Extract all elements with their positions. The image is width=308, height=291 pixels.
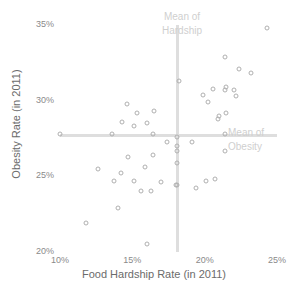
data-point	[152, 109, 157, 114]
data-point	[110, 131, 115, 136]
data-point	[84, 221, 89, 226]
data-point	[222, 148, 227, 153]
data-point	[205, 100, 210, 105]
data-point	[248, 71, 253, 76]
data-point	[144, 121, 149, 126]
data-point	[124, 101, 129, 106]
data-point	[143, 165, 148, 170]
x-tick-label: 15%	[112, 255, 152, 265]
data-point	[175, 160, 180, 165]
data-point	[165, 139, 170, 144]
data-point	[175, 183, 180, 188]
data-point	[159, 180, 164, 185]
data-point	[264, 26, 269, 31]
x-tick-label: 10%	[40, 255, 80, 265]
mean-hardship-line2: Hardship	[162, 24, 202, 38]
data-point	[215, 116, 220, 121]
data-point	[222, 88, 227, 93]
x-axis-title: Food Hardship Rate (in 2011)	[0, 268, 308, 280]
data-point	[189, 139, 194, 144]
data-point	[175, 134, 180, 139]
data-point	[204, 178, 209, 183]
x-tick-label: 20%	[185, 255, 225, 265]
y-tick-label: 35%	[18, 19, 54, 29]
data-point	[150, 131, 155, 136]
data-point	[58, 131, 63, 136]
data-point	[125, 154, 130, 159]
data-point	[176, 78, 181, 83]
mean-obesity-line2: Obesity	[228, 140, 264, 154]
data-point	[234, 94, 239, 99]
mean-hardship-line1: Mean of	[162, 10, 202, 24]
data-point	[134, 110, 139, 115]
data-point	[111, 178, 116, 183]
data-point	[237, 66, 242, 71]
mean-of-hardship-annotation: Mean of Hardship	[162, 10, 202, 38]
data-point	[193, 186, 198, 191]
y-tick-label: 30%	[18, 95, 54, 105]
data-point	[120, 119, 125, 124]
data-point	[149, 189, 154, 194]
data-point	[212, 177, 217, 182]
y-tick-label: 25%	[18, 170, 54, 180]
data-point	[175, 148, 180, 153]
mean-obesity-line1: Mean of	[228, 126, 264, 140]
data-point	[118, 171, 123, 176]
y-axis-title: Obesity Rate (in 2011)	[10, 44, 22, 204]
data-point	[222, 54, 227, 59]
x-tick-label: 25%	[257, 255, 297, 265]
data-point	[115, 206, 120, 211]
data-point	[144, 242, 149, 247]
data-point	[222, 131, 227, 136]
data-point	[131, 178, 136, 183]
data-point	[131, 124, 136, 129]
data-point	[150, 153, 155, 158]
data-point	[231, 88, 236, 93]
data-point	[224, 110, 229, 115]
data-point	[139, 189, 144, 194]
data-point	[211, 86, 216, 91]
scatter-plot-figure: 20%25%30%35% 10%15%20%25% Mean of Hardsh…	[0, 0, 308, 291]
data-point	[95, 166, 100, 171]
mean-of-obesity-annotation: Mean of Obesity	[228, 126, 264, 154]
data-point	[201, 92, 206, 97]
